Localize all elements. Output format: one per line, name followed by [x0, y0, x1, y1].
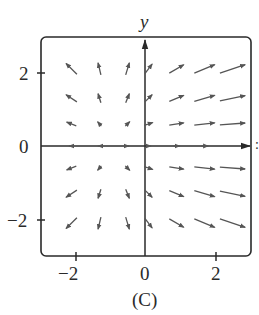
vector-arrow — [220, 123, 245, 125]
ytick-label-0: 0 — [19, 137, 29, 156]
vector-arrow — [145, 95, 152, 102]
vector-arrow — [98, 63, 101, 75]
vector-arrow — [194, 65, 214, 73]
vector-arrow — [220, 191, 245, 196]
vector-arrow — [67, 122, 77, 126]
vector-arrow — [126, 63, 130, 75]
vector-arrow — [98, 189, 101, 198]
vector-arrow — [98, 166, 102, 170]
xtick-label-0: 0 — [140, 264, 150, 283]
vector-arrow — [126, 189, 130, 198]
x-axis-label-partial: : — [255, 138, 259, 152]
vector-arrow — [98, 122, 102, 126]
vector-arrow — [126, 217, 130, 229]
vector-arrow — [169, 191, 183, 197]
vector-arrow — [145, 218, 152, 228]
xtick-label-2: 2 — [211, 264, 221, 283]
vector-arrow — [98, 217, 101, 229]
vector-arrow — [194, 191, 214, 197]
vector-arrow — [67, 166, 77, 170]
vector-arrow — [125, 166, 129, 170]
vector-arrow — [169, 123, 183, 125]
vector-arrow — [220, 219, 245, 227]
ytick-label-neg2: −2 — [7, 211, 27, 230]
vector-arrow — [220, 65, 245, 73]
y-axis-label: y — [140, 12, 148, 31]
vector-arrow — [169, 95, 183, 101]
vector-arrow — [169, 219, 183, 227]
xtick-label-neg2: −2 — [58, 264, 78, 283]
vector-arrow — [66, 95, 77, 102]
vector-arrow — [66, 64, 77, 75]
vector-arrow — [145, 64, 152, 74]
vector-arrow — [194, 95, 214, 101]
vector-arrow — [98, 94, 101, 103]
vector-arrow — [169, 65, 183, 73]
figure-caption: (C) — [132, 290, 157, 309]
vector-arrow — [194, 167, 214, 169]
vector-arrow — [125, 122, 129, 126]
vector-arrow — [126, 94, 130, 103]
vector-arrow — [145, 190, 152, 197]
vector-arrow — [220, 167, 245, 169]
vector-arrow — [194, 219, 214, 227]
vector-arrow — [220, 96, 245, 101]
vector-arrow — [169, 167, 183, 169]
vector-arrow — [66, 190, 77, 197]
ytick-label-2: 2 — [19, 64, 29, 83]
vector-arrow — [194, 123, 214, 125]
vector-arrow — [66, 218, 77, 229]
